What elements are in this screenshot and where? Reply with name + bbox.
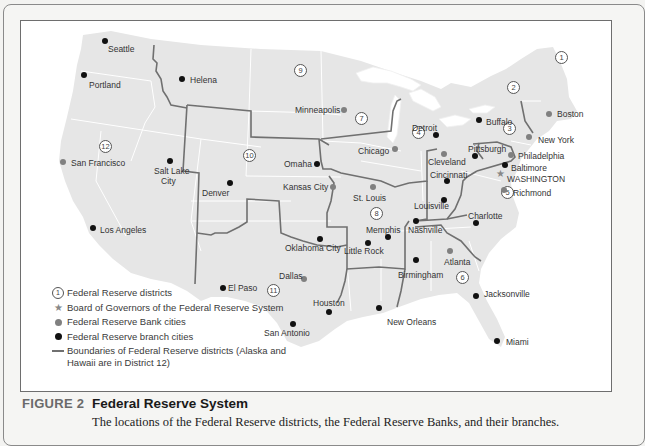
city-label-salt-lake-city: Salt Lake [154, 166, 189, 176]
bank-city-dot-icon [526, 134, 532, 140]
district-marker-1: 1 [555, 51, 568, 64]
star-icon: ★ [54, 302, 63, 314]
city-label-little-rock: Little Rock [344, 246, 384, 256]
district-marker-2: 2 [507, 81, 520, 94]
branch-city-dot-icon [179, 76, 185, 82]
bank-city-dot-icon [392, 146, 398, 152]
bank-city-dot-icon [60, 159, 66, 165]
figure-title: Federal Reserve System [92, 396, 248, 411]
city-label-birmingham: Birmingham [398, 270, 443, 280]
grey-dot-icon [55, 319, 62, 326]
bank-city-dot-icon [341, 107, 347, 113]
city-label-houston: Houston [313, 298, 345, 308]
branch-city-dot-icon [376, 305, 382, 311]
city-label-new-york: New York [538, 135, 574, 145]
branch-city-dot-icon [227, 180, 233, 186]
city-label-dallas: Dallas [279, 271, 303, 281]
city-label-buffalo: Buffalo [486, 117, 512, 127]
branch-city-dot-icon [326, 309, 332, 315]
bank-city-dot-icon [546, 111, 552, 117]
city-label-louisville: Louisville [414, 201, 449, 211]
city-label-baltimore: Baltimore [511, 163, 547, 173]
city-label-cleveland: Cleveland [428, 157, 466, 167]
district-marker-12: 12 [99, 140, 112, 153]
city-label-atlanta: Atlanta [444, 257, 470, 267]
bank-city-dot-icon [330, 184, 336, 190]
legend-item-boundaries: Boundaries of Federal Reserve districts … [49, 345, 299, 369]
city-label-pittsburgh: Pittsburgh [468, 144, 506, 154]
city-label-charlotte: Charlotte [468, 211, 503, 221]
city-label-nashville: Nashville [408, 225, 443, 235]
legend-item-bank-cities: Federal Reserve Bank cities [49, 316, 299, 328]
branch-city-dot-icon [413, 257, 419, 263]
legend-item-districts: 1 Federal Reserve districts [49, 287, 299, 299]
city-label-chicago: Chicago [358, 146, 389, 156]
board-of-governors-star-icon: ★ [496, 168, 505, 179]
figure-description: The locations of the Federal Reserve dis… [92, 415, 559, 430]
map-legend: 1 Federal Reserve districts ★ Board of G… [49, 287, 299, 372]
city-label-boston: Boston [557, 109, 583, 119]
city-label-jacksonville: Jacksonville [484, 289, 530, 299]
city-label-seattle: Seattle [108, 44, 134, 54]
city-label-detroit: Detroit [412, 123, 437, 133]
city-label-richmond: Richmond [513, 188, 551, 198]
city-label-denver: Denver [202, 188, 229, 198]
city-label-miami: Miami [506, 337, 529, 347]
legend-item-board: ★ Board of Governors of the Federal Rese… [49, 302, 299, 314]
city-label-washington: WASHINGTON [507, 174, 565, 184]
black-dot-icon [55, 333, 62, 340]
branch-city-dot-icon [90, 225, 96, 231]
bank-city-dot-icon [370, 184, 376, 190]
branch-city-dot-icon [494, 338, 500, 344]
district-marker-10: 10 [243, 149, 256, 162]
city-label-los-angeles: Los Angeles [100, 225, 146, 235]
branch-city-dot-icon [81, 72, 87, 78]
district-marker-8: 8 [370, 207, 383, 220]
city-label-portland: Portland [89, 80, 121, 90]
city-label-san-francisco: San Francisco [71, 158, 125, 168]
legend-item-branch-cities: Federal Reserve branch cities [49, 331, 299, 343]
branch-city-dot-icon [413, 218, 419, 224]
district-marker-7: 7 [355, 112, 368, 125]
city-label-new-orleans: New Orleans [387, 317, 436, 327]
city-label-minneapolis: Minneapolis [295, 105, 340, 115]
city-label-cincinnati: Cincinnati [430, 170, 467, 180]
branch-city-dot-icon [167, 158, 173, 164]
city-label-philadelphia: Philadelphia [518, 151, 564, 161]
bank-city-dot-icon [447, 248, 453, 254]
city-label-memphis: Memphis [366, 225, 400, 235]
branch-city-dot-icon [473, 293, 479, 299]
branch-city-dot-icon [476, 117, 482, 123]
bank-city-dot-icon [508, 152, 514, 158]
district-marker-9: 9 [294, 64, 307, 77]
branch-city-dot-icon [317, 236, 323, 242]
branch-city-dot-icon [314, 161, 320, 167]
city-label-oklahoma-city: Oklahoma City [285, 243, 341, 253]
city-label-salt-lake-city-2: City [161, 176, 176, 186]
boundary-line-icon [52, 350, 64, 352]
figure-label: FIGURE 2 [22, 396, 84, 411]
bank-city-dot-icon [501, 187, 507, 193]
city-label-omaha: Omaha [284, 159, 312, 169]
map-panel: 123456789101112BostonNew YorkPhiladelphi… [20, 20, 612, 392]
city-label-helena: Helena [190, 75, 217, 85]
city-label-st-louis: St. Louis [353, 193, 386, 203]
district-circle-icon: 1 [52, 287, 64, 299]
city-label-kansas-city: Kansas City [283, 182, 328, 192]
district-marker-6: 6 [456, 271, 469, 284]
